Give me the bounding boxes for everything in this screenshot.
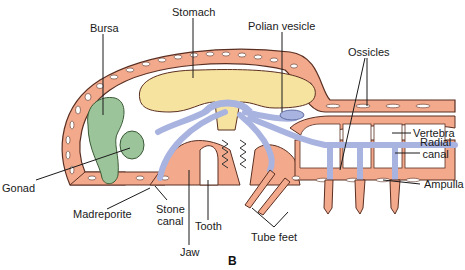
label-radial-canal: Radial canal	[420, 136, 451, 160]
tooth-shape-right	[240, 140, 246, 168]
gonad-shape	[120, 131, 144, 159]
jaw-shape	[200, 146, 218, 185]
bursa-shape	[88, 97, 124, 183]
label-polian-vesicle: Polian vesicle	[248, 20, 315, 32]
label-stone-canal-line2: canal	[156, 215, 185, 227]
anatomy-diagram	[0, 0, 465, 270]
label-ampulla: Ampulla	[424, 178, 464, 190]
label-tube-feet: Tube feet	[251, 231, 297, 243]
label-ossicles: Ossicles	[348, 46, 390, 58]
label-tooth: Tooth	[195, 220, 222, 232]
label-stomach: Stomach	[172, 6, 215, 18]
label-jaw: Jaw	[180, 246, 200, 258]
panel-label: B	[228, 254, 237, 268]
polian-vesicle-shape	[280, 110, 304, 120]
label-stone-canal-line1: Stone	[156, 203, 185, 215]
label-gonad: Gonad	[2, 182, 35, 194]
label-stone-canal: Stone canal	[156, 203, 185, 227]
label-radial-canal-line2: canal	[420, 148, 451, 160]
label-radial-canal-line1: Radial	[420, 136, 451, 148]
label-bursa: Bursa	[90, 22, 119, 34]
label-madreporite: Madreporite	[73, 208, 132, 220]
